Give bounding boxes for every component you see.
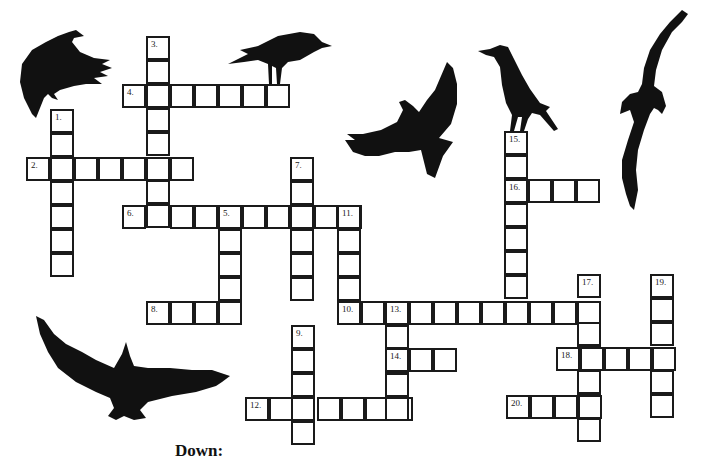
crossword-cell[interactable] (50, 157, 74, 181)
crossword-cell[interactable] (578, 395, 602, 419)
crossword-cell[interactable] (291, 373, 315, 397)
crossword-cell[interactable]: 20. (506, 395, 530, 419)
crossword-cell[interactable] (146, 157, 170, 181)
crossword-cell[interactable] (433, 348, 457, 372)
crossword-cell[interactable] (337, 229, 361, 253)
crossword-cell[interactable] (530, 395, 554, 419)
crossword-cell[interactable] (652, 347, 676, 371)
crossword-cell[interactable] (74, 157, 98, 181)
clue-number: 16. (509, 182, 520, 192)
crossword-cell[interactable] (291, 397, 315, 421)
crossword-cell[interactable] (290, 229, 314, 253)
crossword-cell[interactable] (361, 301, 385, 325)
crossword-cell[interactable] (218, 253, 242, 277)
crossword-cell[interactable] (409, 301, 433, 325)
crossword-cell[interactable] (242, 205, 266, 229)
crossword-cell[interactable]: 6. (122, 205, 146, 229)
crossword-cell[interactable] (194, 84, 218, 108)
crossword-cell[interactable] (337, 277, 361, 301)
crossword-cell[interactable] (650, 298, 674, 322)
crossword-cell[interactable] (341, 397, 365, 421)
crossword-cell[interactable] (650, 370, 674, 394)
crossword-cell[interactable] (409, 348, 433, 372)
crossword-cell[interactable] (552, 179, 576, 203)
crossword-cell[interactable]: 13. (385, 301, 409, 325)
crossword-cell[interactable]: 18. (556, 347, 580, 371)
crossword-cell[interactable] (504, 203, 528, 227)
crossword-cell[interactable]: 16. (504, 179, 528, 203)
crossword-cell[interactable] (266, 84, 290, 108)
crossword-cell[interactable] (580, 347, 604, 371)
crossword-cell[interactable] (242, 84, 266, 108)
crossword-cell[interactable] (604, 347, 628, 371)
crossword-cell[interactable] (146, 108, 170, 132)
crossword-cell[interactable] (218, 277, 242, 301)
crossword-cell[interactable] (218, 229, 242, 253)
crossword-cell[interactable] (504, 251, 528, 275)
crossword-cell[interactable]: 14. (385, 348, 409, 372)
crossword-cell[interactable] (385, 397, 409, 421)
crossword-cell[interactable] (504, 227, 528, 251)
crossword-cell[interactable] (50, 229, 74, 253)
crossword-cell[interactable]: 3. (146, 36, 170, 60)
crossword-cell[interactable] (577, 370, 601, 394)
crossword-cell[interactable] (194, 205, 218, 229)
crossword-cell[interactable] (170, 84, 194, 108)
crossword-cell[interactable] (291, 349, 315, 373)
crossword-cell[interactable] (317, 397, 341, 421)
crossword-cell[interactable] (504, 155, 528, 179)
crossword-cell[interactable] (146, 180, 170, 204)
crossword-cell[interactable] (146, 60, 170, 84)
crossword-cell[interactable] (650, 322, 674, 346)
crossword-cell[interactable] (385, 373, 409, 397)
crossword-cell[interactable] (385, 325, 409, 349)
crossword-cell[interactable] (218, 84, 242, 108)
crossword-cell[interactable] (577, 322, 601, 346)
crossword-cell[interactable] (554, 395, 578, 419)
crossword-cell[interactable] (146, 132, 170, 156)
crossword-cell[interactable] (290, 181, 314, 205)
crossword-cell[interactable]: 17. (577, 274, 601, 298)
crossword-cell[interactable]: 4. (122, 84, 146, 108)
crossword-cell[interactable] (50, 133, 74, 157)
crossword-cell[interactable] (122, 157, 146, 181)
crow-flying-icon (343, 60, 465, 178)
crossword-cell[interactable] (457, 301, 481, 325)
crossword-cell[interactable] (146, 84, 170, 108)
crossword-cell[interactable] (528, 179, 552, 203)
crossword-cell[interactable] (50, 181, 74, 205)
crossword-cell[interactable] (577, 418, 601, 442)
clue-number: 5. (223, 208, 230, 218)
crossword-cell[interactable] (170, 205, 194, 229)
crossword-cell[interactable]: 19. (650, 274, 674, 298)
crossword-cell[interactable] (529, 301, 553, 325)
crossword-cell[interactable] (266, 205, 290, 229)
crossword-cell[interactable]: 5. (218, 205, 242, 229)
crossword-cell[interactable] (146, 204, 170, 228)
crossword-cell[interactable] (50, 253, 74, 277)
crossword-cell[interactable] (628, 347, 652, 371)
crossword-cell[interactable]: 12. (245, 397, 269, 421)
crossword-cell[interactable] (290, 205, 314, 229)
crossword-cell[interactable] (481, 301, 505, 325)
crossword-cell[interactable] (504, 275, 528, 299)
crossword-cell[interactable] (433, 301, 457, 325)
crossword-cell[interactable] (170, 157, 194, 181)
crossword-cell[interactable] (576, 179, 600, 203)
crossword-cell[interactable]: 7. (290, 157, 314, 181)
crossword-cell[interactable] (291, 421, 315, 445)
crossword-cell[interactable]: 9. (291, 325, 315, 349)
crossword-cell[interactable] (314, 205, 338, 229)
crossword-cell[interactable]: 10. (337, 301, 361, 325)
crossword-cell[interactable] (290, 277, 314, 301)
crossword-cell[interactable] (650, 394, 674, 418)
crossword-cell[interactable] (98, 157, 122, 181)
crossword-cell[interactable] (337, 253, 361, 277)
crossword-cell[interactable] (50, 205, 74, 229)
crossword-cell[interactable]: 2. (26, 157, 50, 181)
crossword-cell[interactable] (553, 301, 577, 325)
crossword-cell[interactable] (290, 253, 314, 277)
crossword-cell[interactable] (505, 301, 529, 325)
crossword-cell[interactable]: 11. (337, 205, 361, 229)
crossword-cell[interactable] (269, 397, 293, 421)
